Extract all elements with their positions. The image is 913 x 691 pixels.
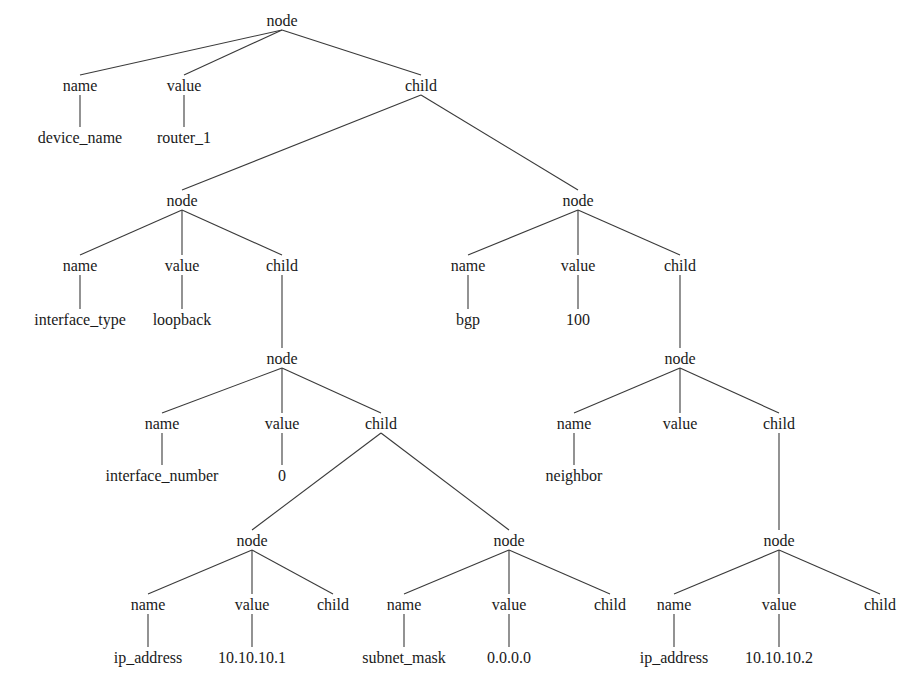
tree-edge-n6-n8 — [80, 210, 182, 255]
tree-node-label: node — [664, 350, 695, 367]
tree-node-label: node — [266, 12, 297, 29]
tree-node-label: interface_number — [106, 467, 220, 484]
tree-node-label: value — [165, 257, 200, 274]
tree-edge-n21-n29 — [252, 433, 381, 530]
tree-edge-n0-n2 — [184, 30, 282, 75]
tree-edge-n35-n36 — [404, 550, 509, 594]
tree-node-label: node — [562, 192, 593, 209]
tree-node-label: value — [663, 415, 698, 432]
tree-node-label: child — [365, 415, 397, 432]
tree-node-label: 0.0.0.0 — [487, 649, 531, 666]
tree-node-label: 0 — [278, 467, 286, 484]
tree-node-label: device_name — [38, 129, 122, 146]
tree-node-label: router_1 — [157, 129, 211, 146]
tree-edge-n0-n1 — [80, 30, 282, 75]
tree-node-label: neighbor — [546, 467, 604, 485]
tree-node-label: value — [265, 415, 300, 432]
tree-node-label: name — [451, 257, 486, 274]
tree-edge-n18-n19 — [162, 368, 282, 413]
tree-node-label: child — [405, 77, 437, 94]
tree-edge-n18-n21 — [282, 368, 381, 413]
tree-node-label: child — [266, 257, 298, 274]
tree-edge-n0-n3 — [282, 30, 421, 75]
tree-node-label: child — [664, 257, 696, 274]
tree-node-label: 10.10.10.1 — [218, 649, 286, 666]
tree-edge-n21-n35 — [381, 433, 509, 530]
tree-node-label: ip_address — [114, 649, 182, 667]
tree-node-label: value — [492, 596, 527, 613]
tree-node-label: ip_address — [640, 649, 708, 667]
tree-edge-n7-n13 — [468, 210, 578, 255]
tree-node-label: node — [266, 350, 297, 367]
tree-edge-n41-n42 — [674, 550, 779, 594]
tree-edge-n35-n38 — [509, 550, 610, 594]
tree-edge-n6-n10 — [182, 210, 282, 255]
tree-node-label: subnet_mask — [362, 649, 446, 666]
tree-node-label: name — [63, 257, 98, 274]
tree-node-label: node — [763, 532, 794, 549]
tree-edge-n24-n25 — [574, 368, 680, 413]
tree-node-label: name — [131, 596, 166, 613]
tree-edge-n29-n32 — [252, 550, 333, 594]
tree-node-label: name — [657, 596, 692, 613]
tree-node-label: loopback — [153, 311, 212, 329]
tree-node-label: value — [561, 257, 596, 274]
tree-node-label: node — [236, 532, 267, 549]
tree-node-label: child — [763, 415, 795, 432]
tree-node-label: name — [63, 77, 98, 94]
parse-tree-diagram: nodenamevaluechilddevice_namerouter_1nod… — [0, 0, 913, 691]
tree-node-label: name — [145, 415, 180, 432]
tree-node-label: node — [493, 532, 524, 549]
tree-node-label: value — [762, 596, 797, 613]
tree-node-label: interface_type — [34, 311, 126, 329]
tree-node-label: 10.10.10.2 — [745, 649, 813, 666]
tree-node-label: bgp — [456, 311, 480, 329]
tree-node-label: node — [166, 192, 197, 209]
tree-node-label: 100 — [566, 311, 590, 328]
tree-node-label: child — [864, 596, 896, 613]
tree-edges — [80, 30, 880, 647]
tree-edge-n24-n27 — [680, 368, 779, 413]
tree-node-label: name — [387, 596, 422, 613]
tree-edge-n29-n30 — [148, 550, 252, 594]
tree-node-label: child — [594, 596, 626, 613]
tree-node-label: value — [235, 596, 270, 613]
tree-edge-n3-n7 — [421, 95, 578, 190]
tree-edge-n3-n6 — [182, 95, 421, 190]
tree-node-label: name — [557, 415, 592, 432]
tree-edge-n41-n44 — [779, 550, 880, 594]
tree-node-label: value — [167, 77, 202, 94]
tree-edge-n7-n15 — [578, 210, 680, 255]
tree-node-label: child — [317, 596, 349, 613]
